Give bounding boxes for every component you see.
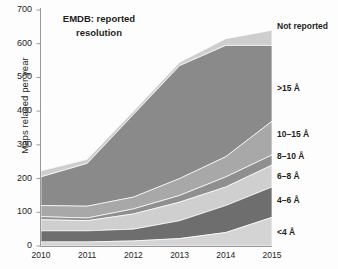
x-tick-label: 2015 [255,251,289,260]
x-tick-label: 2014 [209,251,243,260]
y-tick-label: 400 [6,106,32,115]
y-tick-label: 600 [6,39,32,48]
series-label: 6–8 Å [277,172,300,181]
series-label: 4–6 Å [277,196,300,205]
x-tick-label: 2012 [116,251,150,260]
x-tick-label: 2011 [70,251,104,260]
series-label: >15 Å [277,84,300,93]
y-tick-marks-group [37,10,41,246]
y-tick-label: 700 [6,5,32,14]
x-tick-label: 2013 [163,251,197,260]
y-tick-label: 100 [6,207,32,216]
series-label: <4 Å [277,228,295,237]
chart-figure: Maps relased per year EMDB: reported res… [0,0,338,269]
y-tick-label: 200 [6,174,32,183]
series-label: 8–10 Å [277,152,304,161]
y-tick-label: 500 [6,72,32,81]
series-label: 10–15 Å [277,130,309,139]
y-tick-label: 0 [6,241,32,250]
series-label: Not reported [277,22,328,31]
x-tick-label: 2010 [24,251,58,260]
area-bands-group [41,30,272,246]
y-tick-label: 300 [6,140,32,149]
